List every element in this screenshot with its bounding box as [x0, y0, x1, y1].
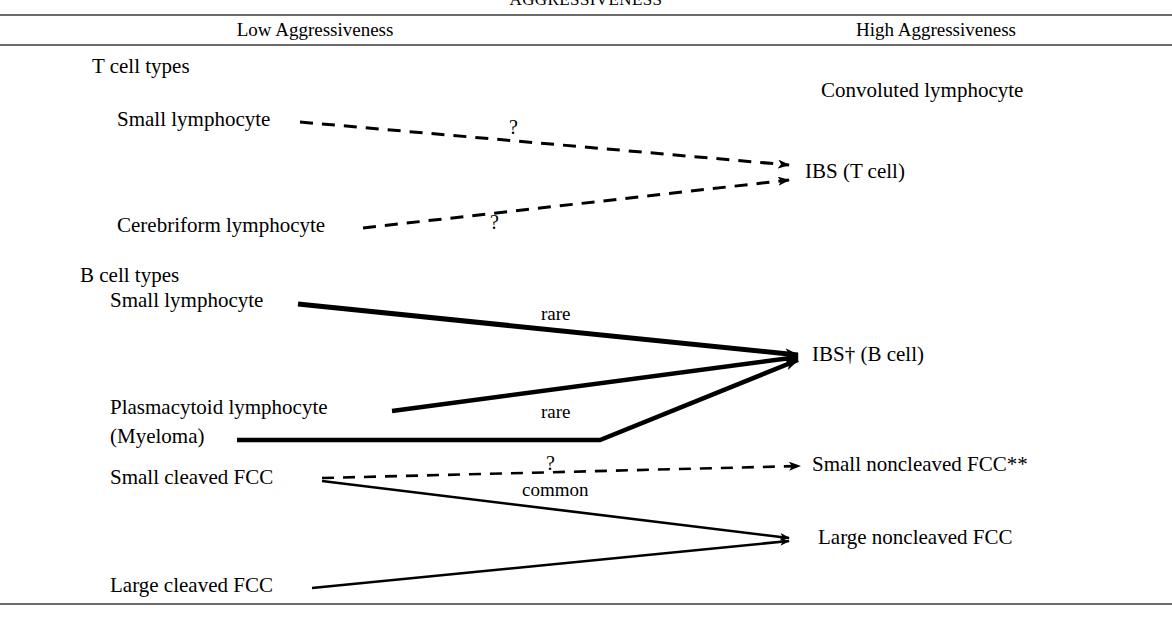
section-heading-b-cell-types: B cell types — [80, 264, 179, 286]
column-header-low-aggressiveness: Low Aggressiveness — [80, 19, 550, 41]
node-small-noncleaved-fcc: Small noncleaved FCC** — [812, 453, 1028, 475]
column-header-high-aggressiveness: High Aggressiveness — [700, 19, 1172, 41]
node-ibs-b-cell: IBS† (B cell) — [812, 343, 924, 365]
node-b-plasmacytoid-lymphocyte: Plasmacytoid lymphocyte — [110, 396, 328, 418]
node-t-small-lymphocyte: Small lymphocyte — [117, 108, 270, 130]
node-b-myeloma: (Myeloma) — [110, 425, 204, 447]
node-b-small-lymphocyte: Small lymphocyte — [110, 289, 263, 311]
edge-label-b-plasmacytoid-rare: rare — [541, 401, 571, 423]
edge-small-cleaved-to-small-noncleaved — [322, 466, 800, 478]
edge-label-b-small-lymphocyte-rare: rare — [541, 303, 571, 325]
edge-t-small-lymphocyte-to-ibs — [300, 122, 789, 165]
edge-label-small-cleaved-common: common — [522, 479, 589, 501]
rule-top — [0, 14, 1172, 16]
node-ibs-t-cell: IBS (T cell) — [805, 160, 905, 182]
section-heading-t-cell-types: T cell types — [92, 55, 190, 77]
edge-label-t-small-lymphocyte-question: ? — [509, 116, 518, 139]
node-t-cerebriform-lymphocyte: Cerebriform lymphocyte — [117, 214, 325, 236]
rule-bottom — [0, 603, 1172, 605]
node-convoluted-lymphocyte: Convoluted lymphocyte — [821, 79, 1023, 101]
edge-large-cleaved-to-large-noncleaved — [312, 541, 789, 588]
edge-label-t-cerebriform-question: ? — [490, 211, 499, 234]
edge-t-cerebriform-to-ibs — [363, 180, 789, 228]
aggressiveness-figure: AGGRESSIVENESS Low Aggressiveness High A… — [0, 0, 1172, 618]
node-b-small-cleaved-fcc: Small cleaved FCC — [110, 466, 273, 488]
rule-header — [0, 44, 1172, 46]
edge-b-plasmacytoid-to-ibs — [392, 357, 798, 411]
node-b-large-cleaved-fcc: Large cleaved FCC — [110, 574, 273, 596]
figure-title: AGGRESSIVENESS — [0, 0, 1172, 10]
node-large-noncleaved-fcc: Large noncleaved FCC — [818, 526, 1012, 548]
edge-label-small-cleaved-question: ? — [546, 452, 555, 475]
